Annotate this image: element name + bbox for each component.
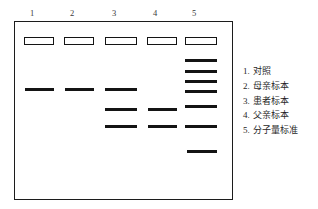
band-lane-5-5 [185,105,217,108]
band-lane-3-2 [105,108,137,111]
legend: 1. 对照 2. 母亲标本 3. 患者标本 4. 父亲标本 5. 分子量标准 [243,64,317,138]
legend-item-2: 2. 母亲标本 [243,79,317,94]
band-lane-4-1 [148,108,177,111]
band-lane-5-7 [187,150,217,153]
band-lane-5-4 [185,90,217,93]
band-lane-5-1 [185,59,217,62]
band-lane-2-1 [65,88,94,91]
band-lane-3-1 [105,88,137,91]
band-lane-4-2 [148,125,177,128]
well-lane-3 [105,37,137,45]
legend-item-5-label: 分子量标准 [253,125,298,135]
well-lane-2 [64,37,94,45]
band-lane-3-3 [105,125,137,128]
legend-item-3-number: 3. [243,96,250,106]
legend-item-5: 5. 分子量标准 [243,123,317,138]
legend-item-3-label: 患者标本 [253,96,289,106]
band-lane-5-2 [185,70,217,73]
legend-item-5-number: 5. [243,125,250,135]
band-lane-5-3 [185,80,217,83]
legend-item-2-label: 母亲标本 [253,81,289,91]
lane-label-5: 5 [187,8,201,18]
legend-item-2-number: 2. [243,81,250,91]
band-lane-1-1 [25,88,54,91]
well-lane-5 [185,37,217,45]
lane-label-4: 4 [148,8,162,18]
legend-item-1-label: 对照 [253,66,271,76]
lane-label-1: 1 [25,8,39,18]
gel-electrophoresis-figure: 1 2 3 4 5 1. 对照 [0,0,318,209]
well-lane-4 [147,37,177,45]
lane-label-3: 3 [107,8,121,18]
legend-item-4: 4. 父亲标本 [243,108,317,123]
legend-item-4-number: 4. [243,110,250,120]
band-lane-5-6 [185,125,217,128]
legend-item-4-label: 父亲标本 [253,110,289,120]
gel-box [14,21,233,200]
legend-item-3: 3. 患者标本 [243,94,317,109]
legend-item-1: 1. 对照 [243,64,317,79]
well-lane-1 [24,37,54,45]
legend-item-1-number: 1. [243,66,250,76]
lane-label-2: 2 [65,8,79,18]
